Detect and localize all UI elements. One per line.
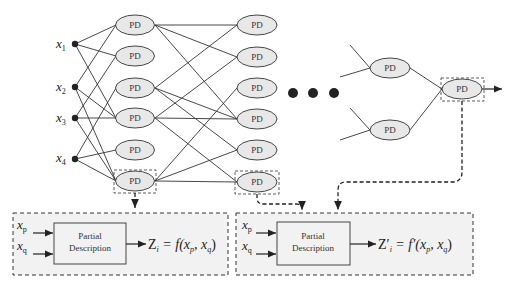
svg-text:PD: PD bbox=[251, 177, 263, 187]
pd-node: PD bbox=[237, 47, 277, 67]
svg-text:Partial: Partial bbox=[301, 231, 325, 241]
svg-text:Description: Description bbox=[292, 243, 334, 253]
pd-node-highlighted: PD bbox=[235, 171, 279, 194]
dashed-connectors bbox=[135, 101, 462, 210]
pd-node: PD bbox=[237, 78, 277, 98]
layer3-nodes: PD PD bbox=[370, 58, 410, 140]
pd-node: PD bbox=[237, 140, 277, 160]
input-label-x2: x2 bbox=[55, 79, 66, 96]
svg-text:PD: PD bbox=[129, 51, 141, 61]
svg-text:PD: PD bbox=[129, 145, 141, 155]
svg-text:PD: PD bbox=[129, 113, 141, 123]
svg-text:PD: PD bbox=[251, 145, 263, 155]
output-pd-node: PD bbox=[441, 78, 484, 101]
pd-node: PD bbox=[116, 108, 155, 128]
pd-node: PD bbox=[370, 58, 410, 78]
pd-node: PD bbox=[116, 140, 155, 160]
svg-text:Partial: Partial bbox=[78, 231, 102, 241]
svg-text:PD: PD bbox=[129, 83, 141, 93]
svg-text:PD: PD bbox=[251, 83, 263, 93]
svg-text:PD: PD bbox=[129, 176, 141, 186]
svg-text:PD: PD bbox=[251, 20, 263, 30]
ellipsis-dots bbox=[288, 88, 339, 98]
svg-text:PD: PD bbox=[251, 52, 263, 62]
pd-node: PD bbox=[116, 46, 155, 66]
equation-right: Z′i = f′(xp, xq) bbox=[378, 237, 452, 254]
svg-text:PD: PD bbox=[384, 125, 396, 135]
pd-node: PD bbox=[237, 15, 277, 35]
pd-node: PD bbox=[116, 15, 155, 35]
svg-text:PD: PD bbox=[129, 20, 141, 30]
pd-node-highlighted: PD bbox=[114, 170, 156, 193]
input-label-x4: x4 bbox=[55, 150, 66, 167]
svg-text:PD: PD bbox=[384, 63, 396, 73]
svg-text:PD: PD bbox=[456, 84, 468, 94]
layer1-nodes: PD PD PD PD PD PD bbox=[114, 15, 156, 193]
svg-text:PD: PD bbox=[251, 114, 263, 124]
pd-node: PD bbox=[237, 109, 277, 129]
gmdh-diagram: x1 x2 x3 x4 PD PD PD PD PD PD PD PD PD P… bbox=[0, 0, 512, 287]
input-nodes bbox=[72, 41, 78, 162]
layer2-nodes: PD PD PD PD PD PD bbox=[235, 15, 279, 194]
equation-left: Zi = f(xp, xq) bbox=[148, 237, 216, 254]
svg-text:Description: Description bbox=[69, 243, 111, 253]
input-label-x1: x1 bbox=[55, 36, 66, 53]
input-label-x3: x3 bbox=[55, 110, 66, 127]
pd-node: PD bbox=[116, 78, 155, 98]
pd-node: PD bbox=[370, 120, 410, 140]
input-connections bbox=[75, 25, 116, 181]
layer1-layer2-connections bbox=[155, 25, 237, 182]
